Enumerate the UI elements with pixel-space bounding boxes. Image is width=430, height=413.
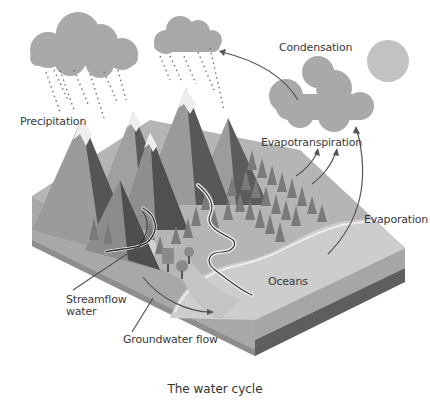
label-oceans: Oceans	[268, 275, 308, 288]
rain-cloud-center	[154, 16, 222, 54]
sun-icon	[367, 40, 409, 82]
rain-cloud-left	[30, 12, 138, 78]
water-cycle-illustration	[0, 0, 430, 413]
label-streamflow-line2: water	[66, 305, 96, 318]
groundwater-leader	[132, 298, 153, 332]
label-groundwater-flow: Groundwater flow	[123, 333, 218, 346]
label-evapotranspiration: Evapotranspiration	[261, 136, 362, 149]
label-streamflow: Streamflow water	[66, 294, 126, 318]
figure-caption: The water cycle	[0, 382, 430, 396]
condensation-cloud	[269, 56, 374, 132]
label-evaporation: Evaporation	[364, 213, 428, 226]
label-precipitation: Precipitation	[20, 115, 86, 128]
label-condensation: Condensation	[279, 41, 352, 54]
